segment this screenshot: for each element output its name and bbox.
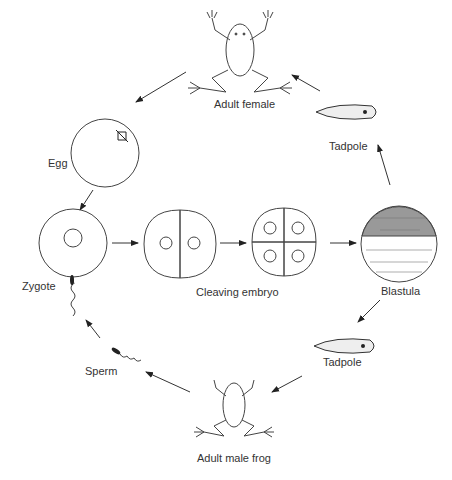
label-tadpole-bottom: Tadpole: [323, 356, 362, 368]
label-adult-male: Adult male frog: [197, 452, 271, 464]
label-sperm: Sperm: [85, 365, 117, 377]
sperm-icon: [111, 346, 141, 361]
blastula-icon: [361, 206, 437, 282]
zygote-icon: [39, 209, 107, 277]
label-adult-female: Adult female: [214, 98, 275, 110]
egg-nucleus-icon: [116, 130, 128, 142]
tadpole-bottom-icon: [314, 339, 374, 353]
label-cleaving-embryo: Cleaving embryo: [196, 286, 279, 298]
adult-female-frog-icon: [188, 10, 292, 94]
adult-male-frog-icon: [194, 380, 274, 437]
label-tadpole-top: Tadpole: [329, 140, 368, 152]
egg-icon: [71, 119, 139, 187]
label-blastula: Blastula: [381, 285, 420, 297]
four-cell-embryo-icon: [252, 208, 316, 276]
label-zygote: Zygote: [22, 280, 56, 292]
label-egg: Egg: [48, 157, 68, 169]
tadpole-top-icon: [316, 105, 376, 119]
two-cell-embryo-icon: [144, 210, 216, 278]
life-cycle-diagram: [0, 0, 452, 480]
